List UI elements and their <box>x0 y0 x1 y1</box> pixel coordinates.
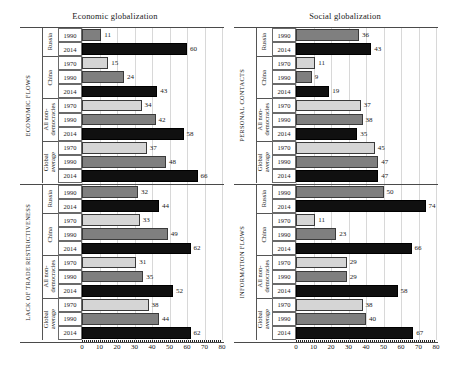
bar-row: 201466 <box>296 241 436 255</box>
year-label-1970: 1970 <box>58 255 82 269</box>
year-label-1970: 1970 <box>272 213 296 227</box>
year-label-1970: 1970 <box>58 98 82 112</box>
bar-row: 197015 <box>82 56 222 70</box>
year-label-1990: 1990 <box>272 227 296 241</box>
bar-value-label: 38 <box>366 116 373 124</box>
bar-1970 <box>82 100 142 112</box>
year-label-2014: 2014 <box>272 199 296 213</box>
group-label: Russia <box>42 28 58 56</box>
group-label-text: Russia <box>261 33 268 50</box>
bar-row: 201458 <box>82 127 222 141</box>
group-label-text: All non- democracies <box>257 103 271 135</box>
bar-1990 <box>296 114 363 126</box>
bar-row: 201444 <box>82 199 222 213</box>
panel-economic-globalization: Economic globalization 01020304050607080… <box>0 0 230 369</box>
year-label-2014: 2014 <box>272 169 296 183</box>
year-label-2014: 2014 <box>58 42 82 56</box>
group-label: All non- democracies <box>256 98 272 140</box>
x-tick-label: 60 <box>393 343 409 351</box>
bar-value-label: 43 <box>374 45 381 53</box>
bar-value-label: 37 <box>150 144 157 152</box>
bar-value-label: 62 <box>194 244 201 252</box>
x-tick-label: 0 <box>74 343 90 351</box>
year-label-1990: 1990 <box>272 185 296 199</box>
bar-row: 199024 <box>82 70 222 84</box>
group-label: Global average <box>42 141 58 183</box>
bar-value-label: 15 <box>111 59 118 67</box>
x-tick-label: 20 <box>109 343 125 351</box>
year-label-1990: 1990 <box>58 185 82 199</box>
bar-1970 <box>82 57 108 69</box>
section-label: ECONOMIC FLOWS <box>20 28 34 183</box>
bar-row: 201467 <box>296 326 436 340</box>
bar-row: 201447 <box>296 169 436 183</box>
x-tick-label: 50 <box>376 343 392 351</box>
year-label-2014: 2014 <box>272 84 296 98</box>
bar-value-label: 58 <box>401 287 408 295</box>
x-tick-label: 60 <box>179 343 195 351</box>
globalization-bar-chart-figure: Economic globalization 01020304050607080… <box>0 0 460 369</box>
section-vertical-rule <box>256 28 257 183</box>
bar-row: 19909 <box>296 70 436 84</box>
group-label: China <box>256 56 272 98</box>
bar-2014 <box>296 86 329 98</box>
group-label-text: Russia <box>47 33 54 50</box>
year-label-1990: 1990 <box>272 312 296 326</box>
bar-row: 199023 <box>296 227 436 241</box>
year-label-1990: 1990 <box>272 155 296 169</box>
bar-2014 <box>82 327 191 339</box>
bar-value-label: 31 <box>139 258 146 266</box>
x-tick-label: 70 <box>411 343 427 351</box>
bar-row: 199029 <box>296 270 436 284</box>
bar-1970 <box>82 142 147 154</box>
bar-value-label: 35 <box>360 130 367 138</box>
year-label-1970: 1970 <box>58 56 82 70</box>
group-label: Global average <box>256 298 272 340</box>
group-label-text: All non- democracies <box>43 103 57 135</box>
section-label-text: ECONOMIC FLOWS <box>24 75 31 137</box>
section-vertical-rule <box>256 185 257 340</box>
bar-value-label: 11 <box>318 59 325 67</box>
bar-value-label: 34 <box>145 101 152 109</box>
group-label: All non- democracies <box>42 98 58 140</box>
bar-row: 199044 <box>82 312 222 326</box>
section-vertical-rule <box>42 185 43 340</box>
x-tick-label: 20 <box>323 343 339 351</box>
bar-row: 197031 <box>82 255 222 269</box>
year-label-1990: 1990 <box>272 113 296 127</box>
bar-row: 199049 <box>82 227 222 241</box>
bar-2014 <box>296 43 371 55</box>
bar-1990 <box>296 271 347 283</box>
bar-row: 197038 <box>82 298 222 312</box>
x-axis-tick-labels: 01020304050607080 <box>288 343 444 355</box>
x-tick-label: 80 <box>214 343 230 351</box>
year-label-2014: 2014 <box>58 127 82 141</box>
bar-row: 197037 <box>296 98 436 112</box>
bar-row: 199032 <box>82 185 222 199</box>
bar-1970 <box>82 299 149 311</box>
bar-row: 201443 <box>296 42 436 56</box>
group-label: Russia <box>42 185 58 213</box>
x-tick-label: 30 <box>127 343 143 351</box>
bar-value-label: 40 <box>369 315 376 323</box>
bar-row: 197034 <box>82 98 222 112</box>
group-label-text: Global average <box>257 309 271 329</box>
group-label-text: Russia <box>261 190 268 207</box>
year-label-2014: 2014 <box>58 241 82 255</box>
bar-row: 199038 <box>296 113 436 127</box>
bar-value-label: 42 <box>159 116 166 124</box>
year-label-1990: 1990 <box>58 28 82 42</box>
bar-1990 <box>82 186 138 198</box>
bar-row: 199050 <box>296 185 436 199</box>
bar-value-label: 49 <box>171 230 178 238</box>
group-label: Russia <box>256 185 272 213</box>
group-label-text: Global average <box>43 152 57 172</box>
year-label-1990: 1990 <box>272 28 296 42</box>
year-label-1990: 1990 <box>58 227 82 241</box>
bar-2014 <box>296 128 357 140</box>
bar-value-label: 32 <box>141 188 148 196</box>
year-label-1970: 1970 <box>58 141 82 155</box>
x-tick-label: 30 <box>341 343 357 351</box>
group-label: Global average <box>256 141 272 183</box>
bar-row: 201460 <box>82 42 222 56</box>
